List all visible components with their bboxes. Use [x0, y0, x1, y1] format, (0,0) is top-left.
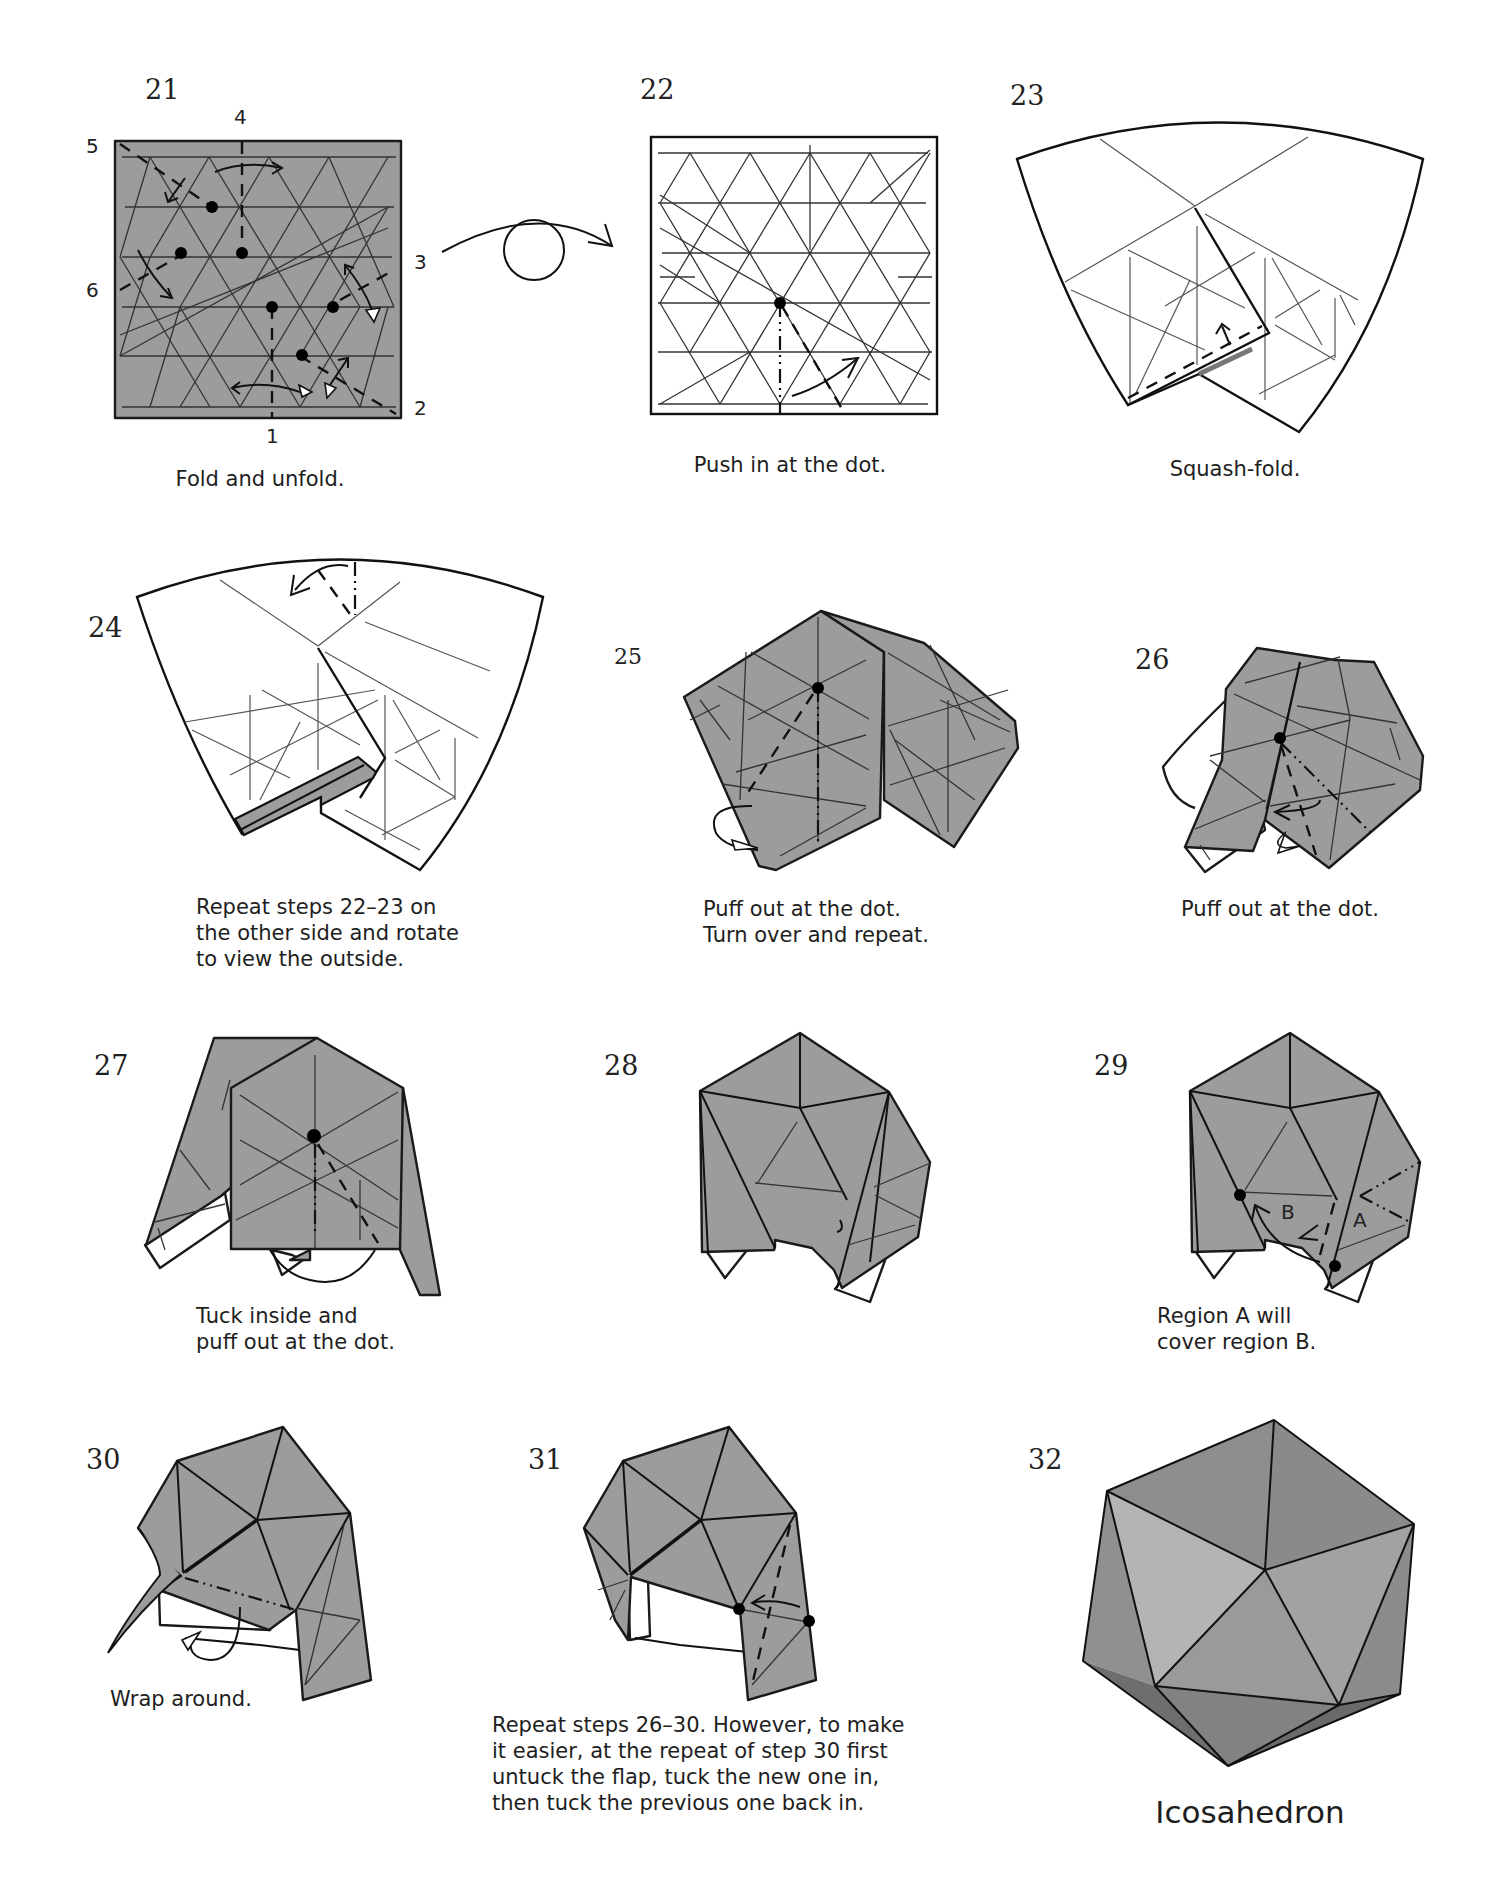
- icosahedron-model: [0, 0, 1480, 1780]
- step-caption-icosahedron: Icosahedron: [1130, 1794, 1370, 1830]
